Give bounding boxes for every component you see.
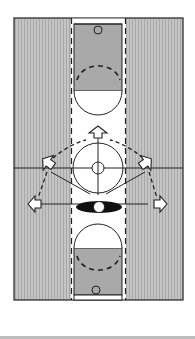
court-diagram (0, 0, 195, 339)
bottom-key (74, 224, 122, 300)
ball-handler-oval-icon (76, 201, 122, 213)
top-key (74, 24, 122, 115)
